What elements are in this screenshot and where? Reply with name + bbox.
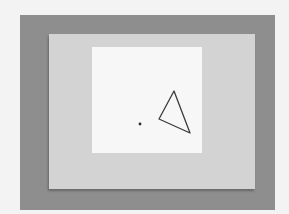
white-center-square [92,47,202,153]
stimulus-figure [0,0,289,214]
